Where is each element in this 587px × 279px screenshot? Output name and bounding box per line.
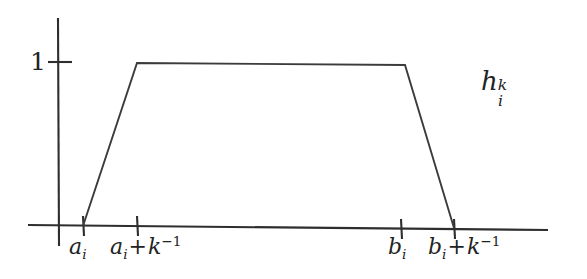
label-a2-exponent: −1 <box>161 233 181 249</box>
label-a-base: a <box>69 234 82 259</box>
curve-label-h-i-k: hki <box>481 68 511 94</box>
horizontal-axis <box>28 225 548 230</box>
label-a2-base: a <box>110 234 123 259</box>
label-b-sub: i <box>402 246 406 262</box>
x-tick-a-i-plus-k-inv <box>137 216 138 236</box>
y-axis-tick-label-one: 1 <box>30 49 46 74</box>
label-b2-exponent: −1 <box>480 233 500 249</box>
x-axis-label-b-i-plus-k-inverse: bi+k−1 <box>428 236 500 258</box>
label-a-sub: i <box>82 246 86 262</box>
vertical-axis <box>58 18 59 246</box>
trapezoid-curve <box>83 63 454 228</box>
curve-label-subscript: i <box>498 94 503 110</box>
label-b2-base: b <box>428 234 442 259</box>
math-figure: 1 ai ai+k−1 bi bi+k−1 hki <box>0 0 587 279</box>
curve-label-base: h <box>481 66 498 96</box>
label-a2-k: k <box>148 234 161 259</box>
x-axis-label-b-i: bi <box>388 236 406 258</box>
x-axis-label-a-i-plus-k-inverse: ai+k−1 <box>110 236 181 258</box>
x-axis-label-a-i: ai <box>69 236 86 258</box>
label-a2-operator: + <box>127 234 147 259</box>
label-b-base: b <box>388 234 402 259</box>
label-b2-operator: + <box>446 234 466 259</box>
label-b2-k: k <box>467 234 480 259</box>
curve-label-superscript: k <box>498 78 507 94</box>
